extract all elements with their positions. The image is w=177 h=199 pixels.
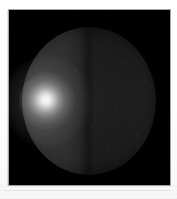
image-plate <box>9 10 170 185</box>
figure-root <box>0 0 177 199</box>
margin-rule <box>7 10 8 186</box>
bright-hotspot <box>19 72 75 130</box>
scan-line-artifacts <box>0 186 177 199</box>
scan-line-primary <box>4 190 171 191</box>
